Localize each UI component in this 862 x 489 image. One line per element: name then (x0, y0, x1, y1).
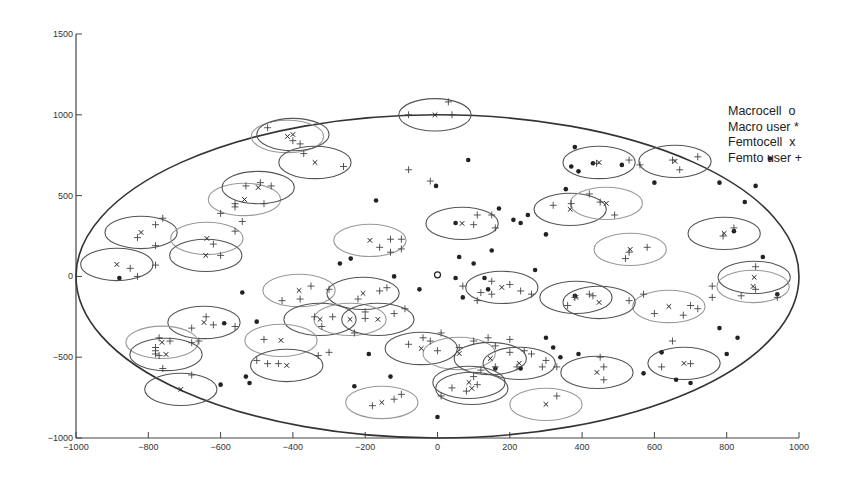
femto-user-marker (528, 291, 535, 298)
femto-user-marker (488, 291, 495, 298)
femtocell-marker (115, 262, 120, 267)
y-tick-label: 0 (68, 271, 73, 281)
femto-user-marker (326, 349, 333, 356)
femto-user-marker (405, 166, 412, 173)
femto-user-marker (329, 313, 336, 320)
data-points (115, 98, 781, 419)
femto-user-marker (553, 363, 560, 370)
macrocell-marker (435, 272, 441, 278)
femto-user-marker (354, 296, 361, 303)
femto-user-marker (600, 363, 607, 370)
femtocell-marker (348, 317, 353, 322)
macro-user-marker (573, 145, 578, 150)
femto-user-marker (600, 376, 607, 383)
femtocell-marker (568, 207, 573, 212)
femto-user-marker (676, 166, 683, 173)
femto-user-marker (506, 281, 513, 288)
femto-user-marker (260, 336, 267, 343)
x-tick-label: 800 (719, 442, 734, 452)
femto-user-marker (539, 363, 546, 370)
macro-user-marker (518, 221, 523, 226)
x-tick-label: −200 (355, 442, 375, 452)
femto-user-marker (391, 396, 398, 403)
femto-user-marker (275, 360, 282, 367)
femto-user-marker (318, 323, 325, 330)
femto-user-marker (387, 236, 394, 243)
femtocell-marker (361, 291, 366, 296)
y-tick-label: 500 (58, 191, 73, 201)
femto-user-marker (680, 312, 687, 319)
macro-user-marker (461, 295, 466, 300)
femto-user-marker (376, 244, 383, 251)
femto-user-marker (694, 305, 701, 312)
x-tick-label: 0 (435, 442, 440, 452)
femtocell-marker (376, 317, 381, 322)
femtocell-marker (419, 346, 424, 351)
femto-user-marker (470, 221, 477, 228)
femtocell-marker (313, 160, 318, 165)
legend: Macrocell o Macro user * Femtocell x Fem… (728, 104, 802, 166)
y-tick-label: −1000 (48, 433, 73, 443)
macro-user-marker (558, 355, 563, 360)
femto-user-marker (568, 200, 575, 207)
femto-user-marker (405, 111, 412, 118)
macro-user-marker (482, 276, 487, 281)
femtocell-marker (284, 363, 289, 368)
femto-user-marker (571, 294, 578, 301)
femto-user-marker (383, 284, 390, 291)
macro-user-marker (544, 336, 549, 341)
femto-user-marker (506, 336, 513, 343)
femto-user-marker (268, 182, 275, 189)
femto-user-marker (152, 221, 159, 228)
macro-user-marker (576, 352, 581, 357)
macro-user-marker (457, 255, 462, 260)
femto-user-marker (474, 211, 481, 218)
femtocell-marker (164, 352, 169, 357)
macro-user-marker (348, 256, 353, 261)
femto-user-marker (477, 289, 484, 296)
femto-user-marker (232, 228, 239, 235)
legend-item-femtocell: Femtocell x (728, 135, 802, 151)
femto-user-marker (289, 137, 296, 144)
femto-user-marker (398, 236, 405, 243)
macro-user-marker (688, 381, 693, 386)
femto-user-marker (492, 363, 499, 370)
macro-user-marker (466, 158, 471, 163)
macro-user-marker (724, 352, 729, 357)
femto-user-marker (127, 265, 134, 272)
macro-user-marker (254, 319, 259, 324)
macro-user-marker (367, 352, 372, 357)
femto-user-marker (311, 313, 318, 320)
femto-user-marker (553, 392, 560, 399)
macro-user-marker (551, 345, 556, 350)
femto-user-marker (597, 354, 604, 361)
femto-user-marker (156, 334, 163, 341)
femtocell-marker (597, 300, 602, 305)
femtocell-marker (752, 275, 757, 280)
macro-user-marker (453, 221, 458, 226)
femtocell-marker (291, 132, 296, 137)
femto-user-marker (134, 234, 141, 241)
femto-user-marker (152, 350, 159, 357)
macro-user-marker (652, 180, 657, 185)
femto-user-marker (315, 352, 322, 359)
femtocell-marker (595, 370, 600, 375)
femto-user-marker (340, 163, 347, 170)
femto-user-marker (586, 291, 593, 298)
femto-user-marker (448, 111, 455, 118)
femtocell-marker (667, 304, 672, 309)
femto-user-marker (651, 310, 658, 317)
femto-user-marker (405, 341, 412, 348)
femtocell-marker (500, 285, 505, 290)
macro-user-marker (388, 374, 393, 379)
femto-user-marker (362, 315, 369, 322)
macro-user-marker (674, 378, 679, 383)
femto-user-marker (210, 321, 217, 328)
macro-user-marker (761, 255, 766, 260)
macro-user-marker (489, 248, 494, 253)
femto-user-marker (550, 202, 557, 209)
femto-user-marker (279, 297, 286, 304)
macro-user-marker (471, 261, 476, 266)
macrocell-coverage-circle (76, 115, 799, 438)
femto-user-marker (658, 363, 665, 370)
